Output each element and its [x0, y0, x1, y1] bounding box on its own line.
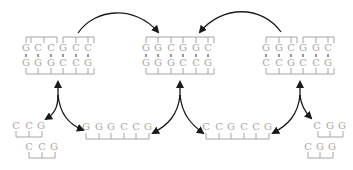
svg-text:C: C: [252, 121, 260, 132]
arrow-left-to-middle: [78, 13, 158, 33]
svg-text:G: G: [227, 121, 235, 132]
svg-text:C: C: [47, 42, 55, 53]
svg-text:G: G: [167, 57, 175, 68]
svg-text:C: C: [324, 42, 332, 53]
arrow-middle-to-right-strand: [180, 95, 203, 133]
svg-text:G: G: [275, 42, 283, 53]
svg-text:C: C: [202, 121, 210, 132]
svg-text:G: G: [299, 42, 307, 53]
svg-text:G: G: [192, 42, 200, 53]
svg-text:G: G: [107, 121, 115, 132]
svg-text:G: G: [144, 121, 152, 132]
svg-text:C: C: [262, 57, 270, 68]
svg-text:C: C: [167, 42, 175, 53]
svg-text:G: G: [37, 120, 45, 131]
svg-text:G: G: [34, 57, 42, 68]
svg-text:C: C: [215, 121, 223, 132]
arrow-left-to-strand: [58, 95, 83, 130]
svg-text:C: C: [287, 42, 295, 53]
svg-text:G: G: [142, 57, 150, 68]
svg-text:G: G: [154, 57, 162, 68]
arrow-right-to-small: [300, 95, 311, 118]
svg-text:C: C: [34, 42, 42, 53]
strand-bottom-mid-right: C C G C C G: [202, 121, 272, 139]
svg-text:G: G: [324, 57, 332, 68]
duplex-middle: G G C G G C G G G C C G: [142, 37, 214, 74]
svg-text:C: C: [120, 121, 128, 132]
strand-bottom-right-b: C G G: [304, 141, 336, 158]
svg-text:C: C: [12, 120, 20, 131]
svg-text:C: C: [312, 57, 320, 68]
svg-text:G: G: [338, 120, 346, 131]
svg-text:G: G: [287, 57, 295, 68]
svg-text:G: G: [82, 121, 90, 132]
svg-text:G: G: [50, 141, 58, 152]
duplex-right: G G C G G C C C G C C G: [262, 37, 334, 74]
svg-text:C: C: [25, 141, 33, 152]
svg-text:C: C: [84, 42, 92, 53]
arrow-left-to-small: [46, 95, 58, 119]
duplex-left: G C C G C C G G G C C G: [22, 37, 94, 74]
svg-text:C: C: [25, 120, 33, 131]
svg-text:C: C: [299, 57, 307, 68]
svg-text:C: C: [179, 57, 187, 68]
svg-text:C: C: [132, 121, 140, 132]
svg-text:G: G: [59, 42, 67, 53]
svg-text:C: C: [59, 57, 67, 68]
svg-text:G: G: [84, 57, 92, 68]
svg-text:G: G: [204, 57, 212, 68]
svg-text:G: G: [328, 141, 336, 152]
arrow-middle-to-left-strand: [153, 95, 180, 133]
strand-bottom-left-a: C C G: [12, 120, 45, 137]
svg-text:C: C: [72, 42, 80, 53]
svg-text:C: C: [38, 141, 46, 152]
strand-bottom-mid-left: G G G C C G: [82, 121, 152, 139]
strand-bottom-right-a: C G G: [313, 120, 346, 137]
arrow-right-to-strand: [273, 95, 300, 133]
svg-text:G: G: [22, 57, 30, 68]
svg-text:G: G: [262, 42, 270, 53]
svg-text:G: G: [22, 42, 30, 53]
svg-text:G: G: [142, 42, 150, 53]
svg-text:G: G: [95, 121, 103, 132]
strand-bottom-left-b: C C G: [25, 141, 58, 158]
svg-text:C: C: [72, 57, 80, 68]
svg-text:G: G: [264, 121, 272, 132]
svg-text:C: C: [313, 120, 321, 131]
svg-text:C: C: [204, 42, 212, 53]
svg-text:G: G: [312, 42, 320, 53]
arrow-right-to-middle: [200, 12, 281, 32]
svg-text:G: G: [316, 141, 324, 152]
svg-text:G: G: [154, 42, 162, 53]
svg-text:C: C: [192, 57, 200, 68]
svg-text:C: C: [275, 57, 283, 68]
svg-text:G: G: [47, 57, 55, 68]
svg-text:C: C: [304, 141, 312, 152]
svg-text:G: G: [179, 42, 187, 53]
strand-exchange-diagram: G C C G C C G G G C C G G G C G G C G G: [0, 0, 353, 170]
svg-text:C: C: [240, 121, 248, 132]
svg-text:G: G: [326, 120, 334, 131]
